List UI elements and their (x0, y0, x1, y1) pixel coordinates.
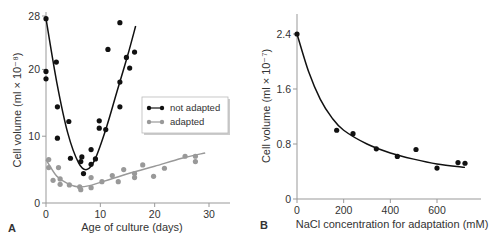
data-point (103, 127, 108, 132)
data-point (193, 159, 198, 164)
chart-a: 01020280102030 Cell volume (ml × 10⁻⁸) A… (8, 10, 230, 234)
data-point (97, 118, 102, 123)
y-axis-label-a: Cell volume (ml × 10⁻⁸) (11, 53, 23, 168)
y-tick-label: 0.8 (276, 138, 291, 150)
data-point (110, 173, 115, 178)
data-point (162, 166, 167, 171)
panel-label-a: A (8, 222, 16, 234)
data-point (334, 128, 339, 133)
data-point (117, 104, 122, 109)
x-tick-label: 600 (428, 204, 446, 216)
data-point (117, 20, 122, 25)
fit-line (297, 34, 465, 167)
x-tick-label: 0 (43, 208, 49, 220)
x-axis-label-a: Age of culture (days) (81, 221, 183, 233)
data-point (58, 176, 63, 181)
data-point (455, 160, 460, 165)
data-point (58, 182, 63, 187)
y-axis-label-b: Cell volume (ml × 10⁻⁷) (260, 49, 272, 163)
data-point (78, 187, 83, 192)
x-tick-label: 400 (382, 204, 400, 216)
data-point (66, 119, 71, 124)
data-point (395, 154, 400, 159)
data-point (121, 167, 126, 172)
y-tick-label: 20 (28, 63, 40, 75)
data-point (151, 174, 156, 179)
data-point (55, 136, 60, 141)
data-point (81, 171, 86, 176)
data-point (116, 179, 121, 184)
data-point (54, 59, 59, 64)
y-tick-label: 2.4 (276, 28, 291, 40)
data-point (182, 154, 187, 159)
data-point (140, 162, 145, 167)
data-point (434, 165, 439, 170)
y-tick-label: 0 (285, 193, 291, 205)
data-point (55, 104, 60, 109)
legend-not-adapted: not adapted (170, 102, 220, 113)
chart-b: 00.81.62.40200400600 Cell volume (ml × 1… (260, 14, 488, 231)
data-point (132, 175, 137, 180)
x-tick-label: 30 (203, 208, 215, 220)
x-tick-label: 10 (94, 208, 106, 220)
y-tick-label: 28 (28, 10, 40, 22)
data-point (88, 147, 93, 152)
data-point (117, 80, 122, 85)
y-tick-label: 1.6 (276, 83, 291, 95)
data-point (56, 165, 61, 170)
data-point (46, 157, 51, 162)
data-point (88, 162, 93, 167)
panel-label-b: B (260, 219, 268, 231)
legend: not adapted adapted (142, 97, 230, 135)
data-point (88, 185, 93, 190)
data-point (50, 178, 55, 183)
x-tick-label: 20 (149, 208, 161, 220)
data-point (68, 156, 73, 161)
data-point (43, 76, 48, 81)
y-tick-label: 0 (34, 197, 40, 209)
y-tick-label: 10 (28, 130, 40, 142)
data-point (78, 159, 83, 164)
data-point (43, 69, 48, 74)
figure: 01020280102030 Cell volume (ml × 10⁻⁸) A… (0, 0, 489, 242)
data-point (97, 126, 102, 131)
x-tick-label: 200 (335, 204, 353, 216)
x-tick-label: 0 (294, 204, 300, 216)
data-point (462, 161, 467, 166)
data-point (132, 49, 137, 54)
legend-adapted: adapted (170, 116, 204, 127)
data-point (374, 146, 379, 151)
data-point (105, 47, 110, 52)
data-point (43, 16, 48, 21)
data-point (99, 179, 104, 184)
data-point (294, 31, 299, 36)
data-point (88, 175, 93, 180)
data-point (93, 156, 98, 161)
data-point (67, 182, 72, 187)
data-point (413, 147, 418, 152)
data-point (350, 131, 355, 136)
x-axis-label-b: NaCl concentration for adaptation (mM) (296, 218, 489, 230)
data-point (127, 65, 132, 70)
data-point (193, 154, 198, 159)
data-point (124, 55, 129, 60)
data-point (79, 154, 84, 159)
data-point (46, 165, 51, 170)
